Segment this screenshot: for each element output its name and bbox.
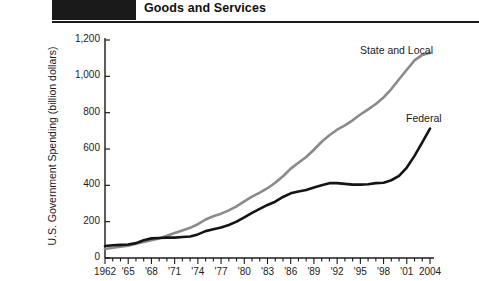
y-tick-label: 0 xyxy=(94,251,100,262)
figure-root: Goods and Services U.S. Government Spend… xyxy=(0,0,479,281)
y-tick-label: 800 xyxy=(83,106,100,117)
y-tick-label: 600 xyxy=(83,142,100,153)
series-line-state-and-local xyxy=(105,53,430,249)
y-tick-label: 1,200 xyxy=(75,33,100,44)
y-tick-label: 400 xyxy=(83,178,100,189)
series-label-federal: Federal xyxy=(406,112,442,124)
y-tick-label: 200 xyxy=(83,215,100,226)
series-label-state-and-local: State and Local xyxy=(360,44,433,56)
y-tick-label: 1,000 xyxy=(75,69,100,80)
line-chart-plot xyxy=(0,0,479,281)
x-tick-label: 2004 xyxy=(410,266,450,277)
